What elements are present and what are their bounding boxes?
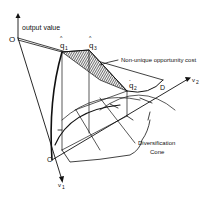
- v1-axis-label: v 1: [58, 182, 65, 190]
- output-value-label: output value: [22, 24, 60, 32]
- point-c-label: C: [47, 156, 52, 163]
- frontier-curve-left: [51, 52, 62, 160]
- svg-text:1: 1: [62, 184, 65, 190]
- svg-text:2: 2: [196, 79, 199, 85]
- point-d-label: D: [160, 84, 165, 91]
- diversification-cone-diagram: output value O ^ q 1 ^ q 3 - q 2 Non-uni…: [0, 0, 220, 197]
- output-value-axis: [16, 13, 21, 38]
- svg-text:q: q: [60, 41, 64, 50]
- svg-text:v: v: [192, 77, 195, 83]
- arrow-right-icon: [185, 77, 191, 82]
- svg-text:2: 2: [134, 85, 137, 91]
- svg-text:1: 1: [65, 45, 68, 51]
- q3-label: ^ q 3: [89, 35, 97, 51]
- svg-text:q: q: [129, 81, 133, 90]
- v1-axis: [18, 38, 64, 183]
- origin-label: O: [9, 35, 15, 44]
- cone-label: Cone: [150, 149, 165, 155]
- q1-label: ^ q 1: [60, 35, 68, 51]
- svg-text:q: q: [89, 41, 93, 50]
- svg-text:v: v: [58, 182, 61, 188]
- v2-axis-label: v 2: [192, 77, 199, 85]
- non-unique-opportunity-cost-label: Non-unique opportunity cost: [121, 57, 196, 63]
- svg-text:3: 3: [94, 45, 97, 51]
- diversification-label: Diversification: [138, 140, 175, 146]
- arrow-up-icon: [16, 13, 21, 18]
- q2-label: - q 2: [129, 77, 137, 91]
